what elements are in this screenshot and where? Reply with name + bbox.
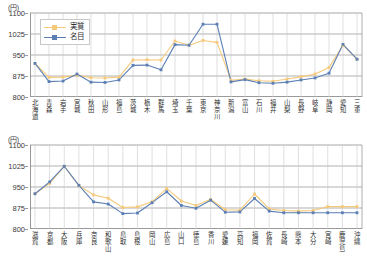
data-point-marker bbox=[326, 211, 329, 214]
y-axis-tick-label: 1025 bbox=[8, 30, 25, 39]
data-point-marker bbox=[272, 82, 275, 85]
data-point-marker bbox=[328, 66, 331, 69]
data-point-marker bbox=[90, 76, 93, 79]
series-line-実質 bbox=[35, 40, 357, 81]
x-axis-tick-label: 沖縄 bbox=[353, 231, 362, 245]
x-axis-tick-label: 秋田 bbox=[87, 99, 96, 113]
data-point-marker bbox=[151, 201, 154, 204]
data-point-marker bbox=[34, 192, 37, 195]
y-axis-tick bbox=[25, 187, 28, 188]
data-point-marker bbox=[121, 206, 124, 209]
y-axis-tick-label: 950 bbox=[12, 51, 25, 60]
data-point-marker bbox=[76, 73, 79, 76]
x-axis-tick-label: 長崎 bbox=[279, 231, 288, 245]
x-axis-tick-label: 三重 bbox=[353, 99, 362, 113]
data-point-marker bbox=[342, 43, 345, 46]
data-point-marker bbox=[121, 212, 124, 215]
y-axis-labels-top: 80087595010251100 bbox=[0, 13, 28, 97]
x-axis-tick-label: 山口 bbox=[177, 231, 186, 245]
data-point-marker bbox=[34, 62, 37, 65]
x-axis-tick-label: 岡山 bbox=[148, 231, 157, 245]
chart-page: (円) 80087595010251100 実質 名目 北海道青森岩 bbox=[0, 0, 367, 265]
legend-swatch-nominal bbox=[44, 33, 66, 42]
data-point-marker bbox=[165, 187, 168, 190]
data-point-marker bbox=[180, 204, 183, 207]
data-point-marker bbox=[356, 211, 359, 214]
data-point-marker bbox=[300, 75, 303, 78]
x-axis-tick-label: 奈良 bbox=[89, 231, 98, 245]
x-axis-tick-label: 熊本 bbox=[294, 231, 303, 245]
y-axis-tick-label: 1025 bbox=[8, 162, 25, 171]
data-point-marker bbox=[326, 205, 329, 208]
data-point-marker bbox=[195, 207, 198, 210]
x-axis-tick-label: 栃木 bbox=[143, 99, 152, 113]
data-point-marker bbox=[107, 197, 110, 200]
data-point-marker bbox=[314, 73, 317, 76]
x-axis-tick-label: 埼玉 bbox=[171, 99, 180, 113]
y-axis-tick-label: 800 bbox=[12, 225, 25, 234]
x-axis-tick-label: 京都 bbox=[45, 231, 54, 245]
y-axis-labels-bottom: 80087595010251100 bbox=[0, 145, 28, 229]
y-axis-tick-label: 1100 bbox=[9, 141, 25, 150]
x-axis-tick-label: 福島 bbox=[115, 99, 124, 113]
x-axis-labels-bottom: 滋賀京都大阪兵庫奈良和歌山鳥取島根岡山広島山口徳島香川愛媛高知福岡佐賀長崎熊本大… bbox=[30, 231, 362, 264]
data-point-marker bbox=[107, 203, 110, 206]
y-axis-tick-label: 950 bbox=[12, 183, 25, 192]
x-axis-tick-label: 千葉 bbox=[185, 99, 194, 113]
data-point-marker bbox=[195, 204, 198, 207]
data-point-marker bbox=[146, 58, 149, 61]
x-axis-tick-label: 広島 bbox=[162, 231, 171, 245]
data-point-marker bbox=[312, 211, 315, 214]
y-axis-tick-label: 1100 bbox=[9, 9, 25, 18]
data-point-marker bbox=[136, 212, 139, 215]
line-chart-bottom bbox=[30, 145, 362, 229]
x-axis-tick-label: 富山 bbox=[241, 99, 250, 113]
data-point-marker bbox=[146, 64, 149, 67]
y-axis-tick bbox=[25, 97, 28, 98]
data-point-marker bbox=[314, 77, 317, 80]
data-point-marker bbox=[48, 80, 51, 83]
x-axis-tick-label: 佐賀 bbox=[265, 231, 274, 245]
data-point-marker bbox=[300, 79, 303, 82]
data-point-marker bbox=[282, 211, 285, 214]
data-point-marker bbox=[253, 197, 256, 200]
data-point-marker bbox=[268, 210, 271, 213]
y-axis-tick bbox=[25, 55, 28, 56]
data-point-marker bbox=[78, 184, 81, 187]
data-point-marker bbox=[224, 208, 227, 211]
legend-swatch-real bbox=[44, 23, 66, 32]
data-point-marker bbox=[63, 165, 66, 168]
x-axis-tick-label: 島根 bbox=[133, 231, 142, 245]
x-axis-tick-label: 宮城 bbox=[73, 99, 82, 113]
data-point-marker bbox=[258, 81, 261, 84]
data-point-marker bbox=[239, 211, 242, 214]
x-axis-tick-label: 愛知 bbox=[339, 99, 348, 113]
data-point-marker bbox=[188, 44, 191, 47]
data-point-marker bbox=[92, 193, 95, 196]
y-axis-tick bbox=[25, 166, 28, 167]
data-point-marker bbox=[136, 205, 139, 208]
x-axis-tick-label: 鳥取 bbox=[118, 231, 127, 245]
chart-panel-bottom: (円) 80087595010251100 滋賀京都大阪兵庫奈良和歌山鳥取島根岡… bbox=[0, 132, 367, 264]
data-point-marker bbox=[341, 205, 344, 208]
data-point-marker bbox=[253, 193, 256, 196]
data-point-marker bbox=[202, 23, 205, 26]
data-point-marker bbox=[165, 190, 168, 193]
chart-legend: 実質 名目 bbox=[40, 19, 90, 45]
data-point-marker bbox=[174, 43, 177, 46]
data-point-marker bbox=[209, 199, 212, 202]
data-point-marker bbox=[160, 59, 163, 62]
x-axis-tick-label: 石川 bbox=[255, 99, 264, 113]
x-axis-tick-label: 茨城 bbox=[129, 99, 138, 113]
data-point-marker bbox=[180, 200, 183, 203]
x-axis-tick-label: 香川 bbox=[206, 231, 215, 245]
x-axis-tick-label: 新潟 bbox=[227, 99, 236, 113]
y-axis-tick bbox=[25, 76, 28, 77]
data-point-marker bbox=[92, 200, 95, 203]
data-point-marker bbox=[202, 39, 205, 42]
x-axis-labels-top: 北海道青森岩手宮城秋田山形福島茨城栃木群馬埼玉千葉東京神奈川新潟富山石川福井山梨… bbox=[30, 99, 362, 132]
x-axis-tick-label: 岩手 bbox=[59, 99, 68, 113]
x-axis-tick-label: 鹿児島 bbox=[338, 231, 347, 252]
x-axis-tick-label: 宮崎 bbox=[323, 231, 332, 245]
x-axis-tick-label: 長野 bbox=[297, 99, 306, 113]
